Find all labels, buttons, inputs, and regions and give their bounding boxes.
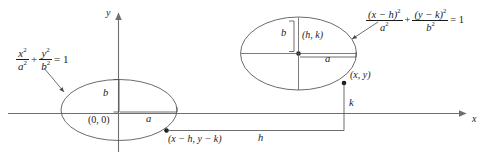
right-equation-plus: + [403,15,413,26]
left-equation-second-fraction: y2 b2 [39,47,52,71]
diagram-canvas: x2 a2 + y2 b2 = 1 (x − h)2 a2 + (y − k)2… [0,0,486,159]
vertical-offset-label: k [349,98,354,109]
left-ellipse-center-label: (0, 0) [88,115,110,125]
left-equation-first-numerator: x2 [16,47,29,60]
left-equation-first-fraction: x2 a2 [16,47,29,71]
right-ellipse-a-label: a [325,54,330,65]
left-equation-second-numerator: y2 [39,47,52,60]
right-ellipse-center-label: (h, k) [302,30,323,40]
left-ellipse-b-label: b [103,88,108,99]
right-equation-first-denominator: a2 [366,21,403,33]
left-ellipse-point-label: (x − h, y − k) [168,134,221,144]
right-equation-second-denominator: b2 [412,21,448,33]
left-ellipse-a-label: a [146,114,151,125]
right-ellipse-equation: (x − h)2 a2 + (y − k)2 b2 = 1 [366,8,466,33]
right-equation-first-fraction: (x − h)2 a2 [366,8,403,33]
left-equation-plus: + [29,54,39,65]
right-equation-second-fraction: (y − k)2 b2 [412,8,448,33]
x-axis-label: x [472,114,476,124]
left-equation-equals: = 1 [52,54,70,65]
horizontal-offset-label: h [258,133,263,144]
right-ellipse-point-label: (x, y) [350,70,371,80]
right-equation-equals: = 1 [448,15,466,26]
left-ellipse-equation: x2 a2 + y2 b2 = 1 [16,47,71,71]
left-equation-first-denominator: a2 [16,60,29,72]
left-equation-second-denominator: b2 [39,60,52,72]
right-ellipse-b-label: b [281,28,286,39]
left-equation-pointer [44,68,64,92]
y-axis-label: y [106,8,110,18]
